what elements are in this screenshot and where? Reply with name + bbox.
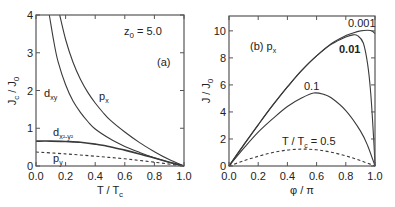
x-tick-label: 0.8 [147,170,162,182]
label-0001: 0.001 [348,17,376,29]
x-tick-label: 0.6 [309,170,324,182]
y-tick-label: 2 [27,85,33,97]
panel-a-tag: (a) [157,56,170,68]
label-001: 0.01 [339,43,360,55]
series-line-t-tc-0-1 [229,93,375,166]
x-tick-label: 1.0 [176,170,191,182]
panel-a-xlabel: T / Tc [97,184,123,199]
series-line-px [60,15,184,166]
y-tick-label: 4 [27,9,33,21]
panel-a-frame [36,15,184,166]
y-tick-label: 8 [220,52,226,64]
label-py: py [53,152,63,167]
x-tick-label: 0.4 [280,170,295,182]
figure: 0.00.20.40.60.81.001234 z0 = 5.0 (a) dxy… [0,0,395,207]
panel-b-xlabel: φ / π [290,184,314,196]
y-tick-label: 3 [27,47,33,59]
panel-b-ylabel: J / J0 [200,78,215,103]
y-tick-label: 10 [214,25,226,37]
label-dx2-y2: dx²-y² [53,126,74,141]
y-tick-label: 2 [220,133,226,145]
y-tick-label: 4 [220,106,226,118]
y-tick-label: 0 [220,160,226,172]
x-tick-label: 0.8 [338,170,353,182]
panel-b-tag: (b) px [250,40,277,54]
label-05: T / Tc = 0.5 [282,135,336,149]
x-tick-label: 0.6 [117,170,132,182]
panel-b-ticks: 0.00.20.40.60.81.00246810 [214,16,383,182]
panel-a-z0-annotation: z0 = 5.0 [124,25,162,40]
label-px: px [99,90,109,104]
panel-a-chart: 0.00.20.40.60.81.001234 z0 = 5.0 (a) dxy… [6,9,192,199]
panel-b-chart: 0.00.20.40.60.81.00246810 (b) px 0.001 0… [200,16,383,196]
panel-a-curves [36,15,184,166]
label-dxy: dxy [44,87,58,102]
y-tick-label: 6 [220,79,226,91]
panel-a-ylabel: Jc / J0 [6,76,21,105]
y-tick-label: 0 [27,160,33,172]
label-01: 0.1 [304,80,319,92]
x-tick-label: 0.4 [88,170,103,182]
series-line-t-tc-0-5 [229,149,375,166]
y-tick-label: 1 [27,122,33,134]
x-tick-label: 1.0 [367,170,382,182]
x-tick-label: 0.2 [58,170,73,182]
x-tick-label: 0.2 [251,170,266,182]
series-line-dxy [49,15,184,166]
